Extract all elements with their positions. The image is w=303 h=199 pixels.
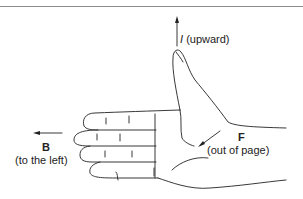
field-direction: (to the left) [15, 154, 68, 166]
current-arrow-icon [175, 16, 179, 46]
current-symbol: I [180, 33, 183, 45]
hand-diagram [0, 0, 303, 199]
current-direction: (upward) [186, 33, 229, 45]
current-label: I (upward) [180, 33, 230, 45]
field-arrow-icon [33, 131, 62, 135]
force-direction: (out of page) [207, 144, 269, 156]
field-symbol: B [42, 141, 50, 153]
force-symbol: F [238, 131, 245, 143]
